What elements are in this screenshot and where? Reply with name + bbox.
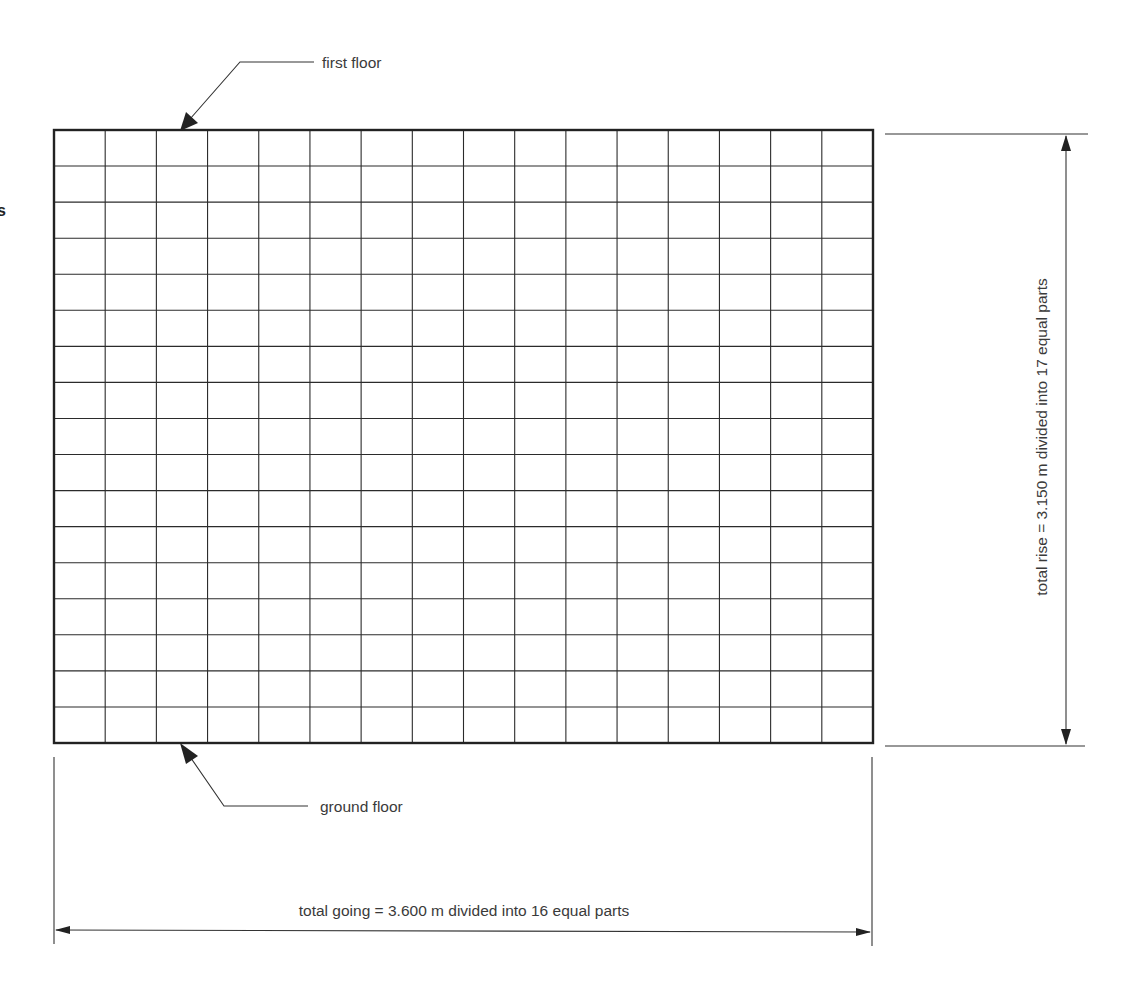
ground-floor-arrowhead-icon (180, 743, 198, 764)
rise-arrow-up-icon (1061, 135, 1071, 151)
going-dimension-line (56, 930, 870, 932)
first-floor-leader-line (183, 62, 314, 127)
going-division-lines (105, 130, 822, 743)
going-arrow-right-icon (856, 928, 871, 936)
stair-layout-diagram: s first floor ground floor total rise = … (0, 0, 1140, 1003)
ground-floor-leader: ground floor (180, 743, 403, 815)
total-going-label: total going = 3.600 m divided into 16 eq… (299, 902, 630, 919)
total-rise-label: total rise = 3.150 m divided into 17 equ… (1033, 278, 1050, 596)
rise-arrow-down-icon (1061, 729, 1071, 745)
first-floor-label: first floor (322, 54, 381, 71)
clipped-edge-text: s (0, 202, 6, 219)
total-rise-dimension: total rise = 3.150 m divided into 17 equ… (885, 134, 1088, 746)
first-floor-arrowhead-icon (180, 112, 198, 131)
ground-floor-label: ground floor (320, 798, 403, 815)
total-going-dimension: total going = 3.600 m divided into 16 eq… (54, 757, 872, 946)
first-floor-leader: first floor (180, 54, 381, 131)
ground-floor-leader-line (184, 748, 308, 806)
going-arrow-left-icon (55, 926, 70, 934)
